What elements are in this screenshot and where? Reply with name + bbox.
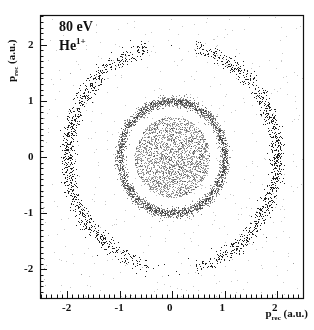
x-tick-label: 1 bbox=[220, 302, 226, 313]
scatter-plot-canvas bbox=[0, 0, 314, 330]
y-tick-label: 1 bbox=[28, 95, 34, 106]
y-tick-label: 2 bbox=[28, 39, 34, 50]
x-tick-label: -1 bbox=[115, 302, 124, 313]
y-axis-label: prec (a.u.) bbox=[5, 39, 20, 82]
y-tick-label: 0 bbox=[28, 151, 34, 162]
x-tick-label: 0 bbox=[167, 302, 173, 313]
ion-annotation: He1+ bbox=[59, 37, 86, 53]
energy-annotation: 80 eV bbox=[59, 20, 93, 34]
x-tick-label: 2 bbox=[272, 302, 278, 313]
x-tick-label: -2 bbox=[62, 302, 71, 313]
y-tick-label: -1 bbox=[24, 207, 33, 218]
y-tick-label: -2 bbox=[24, 263, 33, 274]
